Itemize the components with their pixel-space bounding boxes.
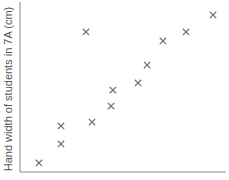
x-marker-icon — [36, 160, 42, 166]
x-marker-icon — [58, 123, 64, 129]
x-marker-icon — [135, 80, 141, 86]
x-marker-icon — [183, 29, 189, 35]
x-marker-icon — [144, 62, 150, 68]
data-points — [36, 12, 216, 166]
x-marker-icon — [160, 38, 166, 44]
x-marker-icon — [110, 87, 116, 93]
y-axis-label: Hand width of students in 7A (cm) — [2, 4, 16, 174]
x-marker-icon — [83, 29, 89, 35]
x-marker-icon — [210, 12, 216, 18]
x-marker-icon — [58, 141, 64, 147]
x-marker-icon — [108, 103, 114, 109]
x-marker-icon — [89, 119, 95, 125]
scatter-plot — [0, 0, 229, 180]
